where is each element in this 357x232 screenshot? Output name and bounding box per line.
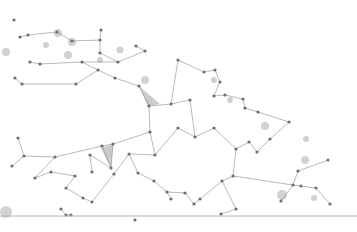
network-edge — [167, 192, 185, 193]
network-edge — [190, 100, 195, 137]
network-edge — [24, 156, 55, 157]
network-edge — [249, 142, 257, 152]
network-node — [326, 158, 329, 161]
network-edge — [115, 78, 139, 86]
network-node — [218, 80, 221, 83]
network-edge — [129, 154, 155, 155]
network-edge — [114, 154, 129, 174]
network-node — [20, 82, 23, 85]
network-node — [212, 94, 215, 97]
network-edge — [155, 128, 178, 155]
network-edge — [66, 188, 83, 198]
network-edge — [178, 60, 204, 72]
network-edge — [178, 128, 195, 137]
network-node — [291, 183, 294, 186]
network-node — [220, 179, 223, 182]
network-edge — [214, 82, 220, 96]
network-edge — [258, 112, 289, 122]
network-node — [198, 197, 201, 200]
network-edge — [233, 176, 293, 185]
network-node — [137, 84, 140, 87]
network-edge — [154, 181, 167, 192]
network-node — [116, 60, 119, 63]
network-edge — [204, 70, 215, 72]
network-node — [153, 153, 156, 156]
network-edge — [90, 155, 92, 172]
network-edge — [222, 176, 233, 181]
network-node — [74, 82, 77, 85]
network-node — [53, 155, 56, 158]
network-node — [183, 191, 186, 194]
network-node — [231, 174, 234, 177]
network-node — [49, 170, 52, 173]
network-edge — [195, 128, 214, 137]
network-edge — [236, 142, 249, 149]
network-node — [192, 202, 195, 205]
network-edge — [98, 70, 115, 78]
network-node — [113, 76, 116, 79]
shaded-triangles — [101, 86, 160, 168]
network-node — [70, 39, 73, 42]
network-node — [64, 186, 67, 189]
network-node — [33, 176, 36, 179]
network-node — [100, 144, 103, 147]
network-node — [234, 207, 237, 210]
network-node — [169, 197, 172, 200]
network-node — [26, 33, 29, 36]
network-node — [234, 147, 237, 150]
network-node — [296, 169, 299, 172]
network-edge — [76, 70, 98, 84]
network-edge — [233, 149, 236, 176]
network-edge — [129, 154, 138, 173]
network-edge — [82, 62, 98, 70]
network-node — [136, 171, 139, 174]
network-node — [147, 104, 150, 107]
shaded-triangle — [139, 86, 160, 106]
network-edge — [12, 156, 24, 166]
network-edge — [171, 100, 190, 104]
network-node — [111, 142, 114, 145]
network-edge — [28, 32, 57, 35]
network-node — [188, 98, 191, 101]
network-graphic — [0, 0, 357, 232]
network-edge — [301, 186, 316, 188]
network-node — [193, 135, 196, 138]
network-edge — [257, 139, 270, 152]
network-node — [165, 190, 168, 193]
network-node — [13, 76, 16, 79]
network-node — [212, 126, 215, 129]
network-edge — [149, 106, 150, 132]
network-node — [299, 184, 302, 187]
network-node — [73, 174, 76, 177]
network-node — [80, 60, 83, 63]
network-edge — [270, 122, 289, 139]
network-node — [328, 202, 331, 205]
network-node — [55, 30, 58, 33]
network-node — [202, 70, 205, 73]
network-node — [148, 130, 151, 133]
network-node — [223, 93, 226, 96]
network-node — [176, 58, 179, 61]
network-edge — [171, 60, 178, 104]
network-edge — [222, 181, 236, 209]
network-node — [99, 28, 102, 31]
network-node — [152, 179, 155, 182]
network-node — [90, 200, 93, 203]
plexus-network-image — [0, 0, 357, 232]
network-node — [109, 166, 112, 169]
network-edge — [293, 171, 298, 185]
network-edge — [316, 188, 330, 204]
network-edge — [72, 40, 100, 41]
network-node — [22, 154, 25, 157]
network-node — [90, 170, 93, 173]
network-edge — [18, 138, 24, 156]
network-node — [176, 126, 179, 129]
network-edge — [92, 174, 114, 202]
network-edge — [113, 132, 150, 144]
network-node — [10, 164, 13, 167]
network-node — [256, 110, 259, 113]
network-node — [88, 153, 91, 156]
network-edge — [214, 128, 236, 149]
network-edge — [221, 209, 236, 214]
network-edge — [40, 62, 82, 64]
